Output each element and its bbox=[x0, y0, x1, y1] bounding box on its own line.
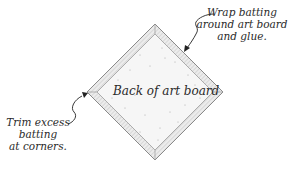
trim-line-2: batting bbox=[4, 128, 72, 140]
wrap-line-3: and glue. bbox=[194, 30, 290, 42]
center-label: Back of art board bbox=[113, 84, 219, 98]
trim-line-1: Trim excess bbox=[4, 116, 72, 128]
diagram-canvas: Back of art board Wrap batting around ar… bbox=[0, 0, 293, 174]
wrap-line-1: Wrap batting bbox=[194, 6, 290, 18]
wrap-line-2: around art board bbox=[194, 18, 290, 30]
trim-callout: Trim excess batting at corners. bbox=[4, 116, 72, 152]
trim-line-3: at corners. bbox=[4, 140, 72, 152]
wrap-callout: Wrap batting around art board and glue. bbox=[194, 6, 290, 42]
